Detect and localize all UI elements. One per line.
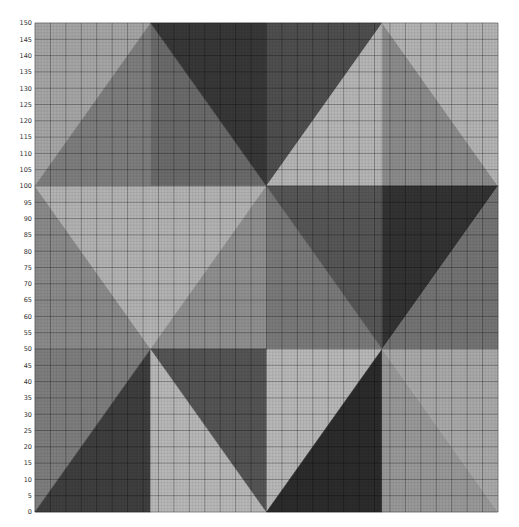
y-tick-label: 85 bbox=[24, 231, 32, 239]
y-tick-label: 95 bbox=[24, 199, 32, 207]
y-tick-label: 110 bbox=[20, 150, 32, 158]
y-tick-label: 55 bbox=[24, 329, 32, 337]
y-tick-label: 10 bbox=[24, 476, 32, 484]
y-tick-label: 105 bbox=[20, 166, 32, 174]
y-tick-label: 25 bbox=[24, 427, 32, 435]
y-tick-label: 20 bbox=[24, 443, 32, 451]
y-tick-label: 120 bbox=[20, 117, 32, 125]
y-tick-label: 140 bbox=[20, 52, 32, 60]
y-tick-label: 5 bbox=[28, 492, 32, 500]
y-tick-label: 125 bbox=[20, 101, 32, 109]
y-axis-tick-labels: 0510152025303540455055606570758085909510… bbox=[20, 19, 32, 516]
y-tick-label: 35 bbox=[24, 394, 32, 402]
y-tick-label: 50 bbox=[24, 345, 32, 353]
y-tick-label: 150 bbox=[20, 19, 32, 27]
y-tick-label: 30 bbox=[24, 411, 32, 419]
y-tick-label: 145 bbox=[20, 36, 32, 44]
y-tick-label: 40 bbox=[24, 378, 32, 386]
y-tick-label: 65 bbox=[24, 296, 32, 304]
y-tick-label: 115 bbox=[20, 133, 32, 141]
y-tick-label: 45 bbox=[24, 362, 32, 370]
y-tick-label: 100 bbox=[20, 182, 32, 190]
y-tick-label: 70 bbox=[24, 280, 32, 288]
quilt-chart: 0510152025303540455055606570758085909510… bbox=[0, 0, 519, 527]
y-tick-label: 135 bbox=[20, 68, 32, 76]
y-tick-label: 80 bbox=[24, 248, 32, 256]
y-tick-label: 130 bbox=[20, 85, 32, 93]
y-tick-label: 0 bbox=[28, 508, 32, 516]
y-tick-label: 15 bbox=[24, 459, 32, 467]
y-tick-label: 60 bbox=[24, 313, 32, 321]
y-tick-label: 90 bbox=[24, 215, 32, 223]
y-tick-label: 75 bbox=[24, 264, 32, 272]
